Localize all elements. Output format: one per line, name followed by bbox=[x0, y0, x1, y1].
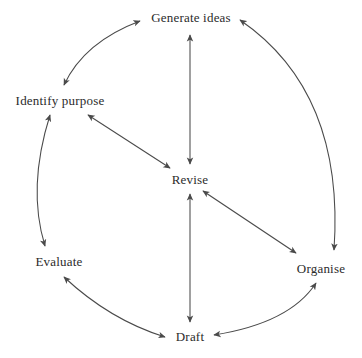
connector-identify-purpose-to-revise bbox=[88, 115, 170, 168]
connector-identify-purpose-to-evaluate bbox=[37, 115, 50, 246]
node-generate-ideas: Generate ideas bbox=[151, 10, 231, 25]
connector-draft-to-organise bbox=[214, 283, 316, 335]
connector-revise-to-organise bbox=[203, 191, 296, 253]
node-organise: Organise bbox=[297, 261, 345, 276]
connector-generate-ideas-to-organise bbox=[240, 20, 335, 250]
node-draft: Draft bbox=[176, 329, 204, 344]
node-revise: Revise bbox=[172, 172, 209, 187]
node-identify-purpose: Identify purpose bbox=[16, 93, 105, 108]
node-evaluate: Evaluate bbox=[35, 254, 82, 269]
connector-identify-purpose-to-generate-ideas bbox=[64, 21, 140, 85]
connector-evaluate-to-draft bbox=[64, 277, 165, 337]
writing-process-diagram: Generate ideas Identify purpose Revise E… bbox=[0, 0, 362, 358]
